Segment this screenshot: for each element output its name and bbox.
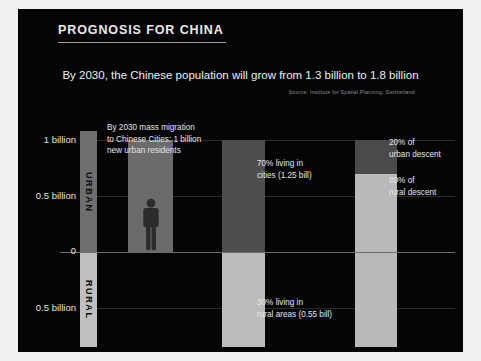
callout-rural-descent: 80% of rural descent — [389, 175, 436, 198]
band-rural: RURAL — [80, 253, 97, 347]
callout-cities: 70% living in cities (1.25 bill) — [257, 158, 312, 181]
chart-plot-area: 1 billion 0.5 billion 0 0.5 billion URBA… — [18, 9, 463, 352]
callout-rural-areas: 30% living in rural areas (0.55 bill) — [257, 297, 332, 320]
axis-label-0.5-billion: 0.5 billion — [18, 190, 76, 201]
callout-migration: By 2030 mass migration to Chinese Cities… — [107, 122, 201, 157]
axis-label-zero: 0 — [18, 245, 76, 256]
callout-urban-descent: 20% of urban descent — [389, 137, 441, 160]
band-urban: URBAN — [80, 131, 97, 253]
axis-label-1-billion: 1 billion — [18, 134, 76, 145]
slide-panel: PROGNOSIS FOR CHINA By 2030, the Chinese… — [18, 9, 463, 352]
band-urban-label: URBAN — [84, 172, 94, 213]
bar-cities-urban — [222, 140, 265, 252]
band-rural-label: RURAL — [84, 280, 94, 320]
person-silhouette-icon — [140, 197, 162, 252]
axis-label-0.5-billion-rural: 0.5 billion — [18, 302, 76, 313]
bar-descent-below-axis — [355, 253, 397, 347]
